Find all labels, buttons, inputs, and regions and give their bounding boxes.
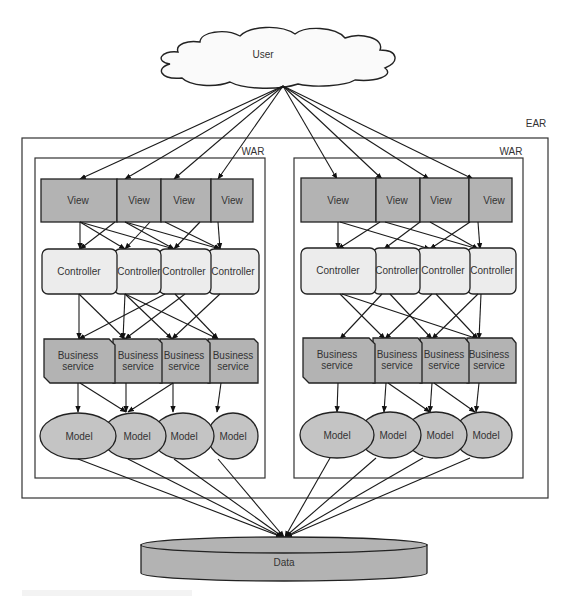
- ear-label: EAR: [526, 118, 547, 129]
- controller-label: Controller: [211, 266, 255, 277]
- view-label: View: [128, 195, 150, 206]
- business-to-model-arrows-left: [78, 383, 221, 412]
- business-label-line2: service: [217, 361, 249, 372]
- business-label-line1: Business: [58, 350, 99, 361]
- cloud-icon: [161, 27, 395, 88]
- model-row-left: Model Model Model Model: [40, 413, 258, 459]
- business-to-model-arrows-right: [337, 383, 479, 412]
- controller-label: Controller: [375, 265, 419, 276]
- user-to-view-arrows: [80, 86, 473, 179]
- business-label-line1: Business: [164, 350, 205, 361]
- database-top: [141, 537, 427, 553]
- business-label-line1: Business: [118, 350, 159, 361]
- business-label-line2: service: [62, 361, 94, 372]
- model-label: Model: [426, 430, 453, 441]
- architecture-diagram: EAR WAR WAR User View View View View: [0, 0, 566, 600]
- business-label-line2: service: [428, 360, 460, 371]
- controller-row-left: Controller Controller Controller Control…: [42, 249, 259, 294]
- business-label-line1: Business: [424, 349, 465, 360]
- view-label: View: [430, 195, 452, 206]
- controller-to-business-arrows-left: [79, 294, 220, 339]
- controller-label: Controller: [470, 265, 514, 276]
- business-label-line2: service: [381, 360, 413, 371]
- business-label-line2: service: [473, 360, 505, 371]
- model-label: Model: [219, 431, 246, 442]
- model-label: Model: [170, 431, 197, 442]
- business-row-right: Business service Business service Busine…: [303, 338, 516, 383]
- business-label-line1: Business: [213, 350, 254, 361]
- war-label-right: WAR: [500, 146, 523, 157]
- model-label: Model: [65, 431, 92, 442]
- view-label: View: [173, 195, 195, 206]
- model-row-right: Model Model Model Model: [300, 412, 512, 458]
- view-to-controller-arrows-right: [338, 222, 480, 249]
- view-label: View: [483, 195, 505, 206]
- caption-remnant: [22, 590, 192, 596]
- view-row-left: View View View View: [41, 179, 253, 222]
- business-row-left: Business service Business service Busine…: [44, 339, 258, 383]
- model-label: Model: [323, 430, 350, 441]
- view-label: View: [67, 195, 89, 206]
- controller-to-business-arrows-right: [340, 294, 481, 339]
- controller-label: Controller: [57, 266, 101, 277]
- controller-label: Controller: [316, 265, 360, 276]
- business-label-line1: Business: [377, 349, 418, 360]
- controller-label: Controller: [421, 265, 465, 276]
- view-to-controller-arrows-left: [80, 222, 220, 249]
- view-label: View: [221, 195, 243, 206]
- user-cloud: User: [161, 27, 395, 88]
- user-label: User: [252, 49, 274, 60]
- model-label: Model: [472, 430, 499, 441]
- view-label: View: [386, 195, 408, 206]
- business-label-line1: Business: [469, 349, 510, 360]
- controller-label: Controller: [117, 266, 161, 277]
- model-label: Model: [379, 430, 406, 441]
- controller-row-right: Controller Controller Controller Control…: [301, 248, 516, 294]
- business-label-line2: service: [321, 360, 353, 371]
- view-label: View: [327, 195, 349, 206]
- view-row-right: View View View View: [301, 178, 512, 222]
- data-label: Data: [273, 557, 295, 568]
- business-label-line2: service: [122, 361, 154, 372]
- data-store[interactable]: Data: [141, 537, 427, 581]
- business-label-line1: Business: [317, 349, 358, 360]
- controller-label: Controller: [162, 266, 206, 277]
- model-label: Model: [123, 431, 150, 442]
- business-label-line2: service: [168, 361, 200, 372]
- war-label-left: WAR: [242, 146, 265, 157]
